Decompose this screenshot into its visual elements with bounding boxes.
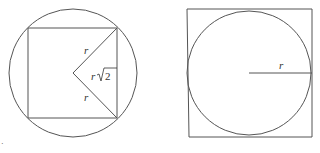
right-figure: r bbox=[187, 9, 312, 137]
right-radius-label: r bbox=[279, 59, 284, 71]
left-upper-radius-line bbox=[73, 28, 117, 73]
left-figure: r r r 2 bbox=[9, 9, 137, 137]
geometry-diagram: r r r 2 r · bbox=[0, 0, 320, 153]
left-side-length-prefix: r bbox=[91, 70, 96, 82]
stray-mark: · bbox=[1, 139, 4, 148]
left-side-length-root-value: 2 bbox=[105, 70, 111, 82]
left-side-length-label: r 2 bbox=[91, 68, 117, 82]
left-upper-radius-label: r bbox=[84, 44, 89, 56]
left-lower-radius-label: r bbox=[84, 91, 89, 103]
